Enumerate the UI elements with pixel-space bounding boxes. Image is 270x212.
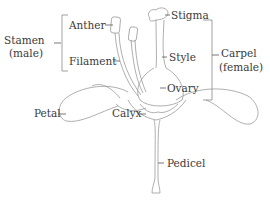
flower-illustration [59,8,258,193]
filament-1 [115,33,141,96]
style-label: Style [169,51,196,63]
stamen-label: Stamen [4,34,45,46]
petal-label: Petal [34,107,61,119]
filament-label: Filament [69,55,117,67]
stamen-bracket [54,15,68,71]
carpel-bracket [203,20,219,100]
stigma-shape [148,8,168,21]
style-shape [156,20,166,68]
carpel-sublabel: (female) [219,61,263,73]
ovary-label: Ovary [167,82,199,94]
carpel-label: Carpel [221,47,257,59]
stamen-sublabel: (male) [9,47,43,59]
anther-2 [128,27,138,42]
pedicel-label: Pedicel [167,157,206,169]
stigma-label: Stigma [171,9,209,21]
anther-label: Anther [68,19,107,31]
right-petal-shape [176,89,258,124]
flower-diagram: Stamen (male) Carpel (female) Anther Fil… [0,0,270,212]
calyx-label: Calyx [112,107,142,119]
pedicel-shape [152,120,160,193]
